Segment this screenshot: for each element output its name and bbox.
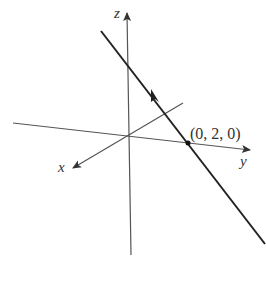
axes-diagram: z y x (0, 2, 0): [0, 0, 266, 281]
z-axis-label: z: [113, 5, 120, 21]
y-axis-label: y: [238, 153, 247, 169]
point-label: (0, 2, 0): [190, 125, 241, 143]
diagram-canvas: z y x (0, 2, 0): [0, 0, 266, 281]
x-axis-label: x: [57, 159, 65, 175]
x-axis: [73, 103, 183, 168]
